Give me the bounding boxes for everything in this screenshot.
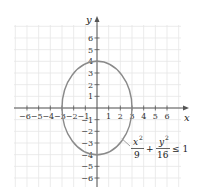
y-tick-label: 1: [88, 92, 93, 101]
y-tick-label: 5: [88, 46, 93, 55]
eq-numerator-2: y: [158, 137, 165, 147]
annotation-pointer: [122, 139, 130, 146]
y-tick-label: −6: [81, 174, 93, 183]
y-tick-label: −4: [81, 151, 93, 160]
y-tick-label: 2: [88, 81, 93, 90]
x-axis-arrow-icon: [183, 106, 189, 111]
y-axis-arrow-icon: [95, 16, 100, 22]
chart: −6−5−4−3−2−1123456−6−5−4−3−2−1123456 x y…: [0, 0, 201, 191]
eq-denominator-2: 16: [157, 150, 169, 160]
x-tick-label: 5: [153, 112, 158, 121]
eq-numerator-1: x: [133, 137, 138, 147]
x-tick-label: 2: [118, 112, 123, 121]
y-tick-label: 3: [88, 69, 93, 78]
y-tick-label: −1: [81, 116, 93, 125]
x-axis-label: x: [184, 112, 190, 123]
axes: [14, 16, 189, 187]
y-tick-label: −3: [81, 139, 93, 148]
x-tick-label: 4: [141, 112, 146, 121]
eq-denominator-1: 9: [134, 150, 140, 160]
x-tick-label: −2: [66, 112, 78, 121]
x-tick-label: 6: [164, 112, 169, 121]
ticks: −6−5−4−3−2−1123456−6−5−4−3−2−1123456: [19, 34, 169, 183]
eq-plus: +: [146, 144, 154, 154]
y-axis-label: y: [85, 14, 92, 25]
x-tick-label: −5: [31, 112, 43, 121]
eq-exponent-2: 2: [165, 134, 169, 141]
x-tick-label: −6: [19, 112, 31, 121]
eq-relation: ≤ 1: [172, 144, 188, 154]
y-tick-label: −5: [81, 162, 93, 171]
x-tick-label: 1: [106, 112, 111, 121]
y-tick-label: 6: [88, 34, 93, 43]
inequality-label: x 2 9 + y 2 16 ≤ 1: [131, 134, 188, 160]
x-tick-label: −3: [54, 112, 66, 121]
eq-exponent-1: 2: [139, 134, 143, 141]
y-tick-label: −2: [81, 127, 93, 136]
x-tick-label: −4: [42, 112, 54, 121]
